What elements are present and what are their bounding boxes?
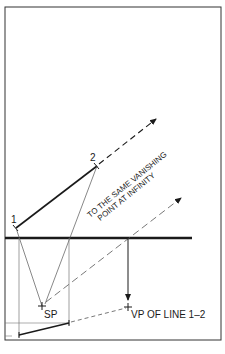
frame-border bbox=[5, 7, 221, 340]
sight-line-to-1 bbox=[16, 228, 42, 306]
perspective-diagram: 1 2 SP VP OF LINE 1–2 TO THE SAME VANISH… bbox=[0, 0, 225, 354]
plan-dashed-to-vp bbox=[71, 308, 126, 322]
label-point-2: 2 bbox=[90, 152, 96, 163]
line-1-2 bbox=[16, 166, 97, 228]
sp-parallel-line bbox=[46, 198, 181, 302]
annotation-infinity: TO THE SAME VANISHING POINT AT INFINITY bbox=[86, 150, 175, 227]
label-vanishing-point: VP OF LINE 1–2 bbox=[131, 309, 206, 320]
plan-segment bbox=[19, 323, 69, 335]
label-point-1: 1 bbox=[11, 214, 17, 225]
projection-line-1-2 bbox=[99, 119, 156, 164]
annotation-line-1: TO THE SAME VANISHING bbox=[86, 150, 169, 220]
label-station-point: SP bbox=[44, 309, 58, 320]
